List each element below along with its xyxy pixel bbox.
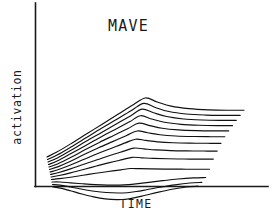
y-axis-label: activation [10,69,24,144]
trace-line [49,123,229,167]
axes-group [35,3,268,187]
trace-line [50,131,225,170]
x-axis-label: TIME [0,197,272,211]
trace-line [47,98,244,157]
trace-group [47,98,244,200]
page-title: MAVE [108,17,149,35]
trace-line [51,148,218,174]
mave-activation-figure: MAVE activation TIME [0,0,272,219]
y-axis-label-container: activation [6,52,28,162]
